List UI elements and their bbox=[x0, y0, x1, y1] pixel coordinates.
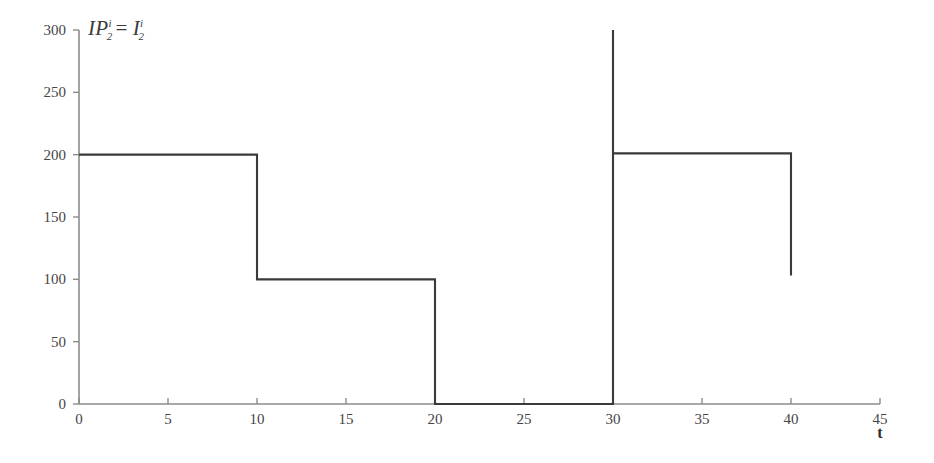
chart-container: 050100150200250300051015202530354045 IPi… bbox=[0, 0, 934, 463]
x-tick-label: 0 bbox=[75, 411, 83, 428]
rhs-superscript: i bbox=[140, 17, 143, 29]
x-tick-label: 20 bbox=[428, 411, 443, 428]
x-tick-label: 30 bbox=[606, 411, 621, 428]
x-tick-label: 25 bbox=[517, 411, 532, 428]
y-tick-label: 100 bbox=[14, 271, 66, 288]
y-tick-label: 50 bbox=[14, 333, 66, 350]
lhs-superscript: i bbox=[108, 17, 111, 29]
lhs-subscript: 2 bbox=[107, 30, 113, 42]
x-axis-title: t bbox=[877, 424, 882, 442]
y-tick-label: 250 bbox=[14, 84, 66, 101]
y-tick-label: 200 bbox=[14, 146, 66, 163]
rhs-subscript: 2 bbox=[138, 30, 144, 42]
x-tick-label: 40 bbox=[784, 411, 799, 428]
chart-canvas bbox=[0, 0, 934, 463]
series-equation-label: IPi2=Ii2 bbox=[88, 16, 144, 42]
y-tick-label: 300 bbox=[14, 22, 66, 39]
y-tick-label: 150 bbox=[14, 209, 66, 226]
axes-group bbox=[73, 30, 880, 404]
x-tick-label: 10 bbox=[250, 411, 265, 428]
x-tick-label: 35 bbox=[695, 411, 710, 428]
lhs-base: IP bbox=[88, 16, 108, 40]
step-series-line bbox=[79, 30, 791, 404]
y-tick-label: 0 bbox=[14, 396, 66, 413]
equals-sign: = bbox=[116, 16, 128, 40]
x-tick-label: 5 bbox=[164, 411, 172, 428]
x-tick-label: 15 bbox=[339, 411, 354, 428]
y-axis-ticks bbox=[73, 30, 79, 404]
